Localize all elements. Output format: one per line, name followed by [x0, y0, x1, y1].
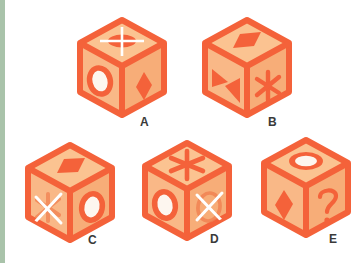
cube-c-label: C: [88, 234, 97, 246]
cube-c-graphic: [20, 139, 120, 247]
cube-d[interactable]: [137, 137, 237, 245]
puzzle-canvas: A: [0, 0, 360, 263]
left-rail-accent: [0, 0, 5, 263]
cube-a-graphic: [72, 14, 172, 122]
cube-b-label: B: [268, 116, 277, 128]
cube-e-graphic: [256, 134, 356, 242]
cube-b[interactable]: [197, 14, 297, 122]
cube-b-graphic: [197, 14, 297, 122]
cube-e-label: E: [329, 233, 337, 245]
cube-e[interactable]: [256, 134, 356, 242]
cube-e-symbol-top: [289, 152, 323, 170]
cube-a-label: A: [140, 116, 149, 128]
cube-c[interactable]: [20, 139, 120, 247]
cube-d-graphic: [137, 137, 237, 245]
cube-a[interactable]: [72, 14, 172, 122]
cube-d-label: D: [210, 233, 219, 245]
